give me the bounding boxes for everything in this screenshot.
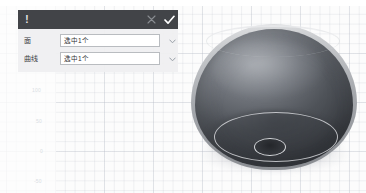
curve-field-wrapper: 选中1个	[60, 52, 172, 65]
form-row-face: 面 选中1个	[24, 34, 172, 47]
dome-bottom-hole[interactable]	[254, 138, 286, 156]
application-window: 100 50 0 -50 !	[0, 0, 366, 193]
checkmark-icon	[164, 15, 175, 25]
dialog-header[interactable]: !	[18, 10, 178, 29]
curve-selection-input[interactable]: 选中1个	[60, 52, 160, 65]
face-selection-input[interactable]: 选中1个	[60, 34, 160, 47]
face-field-wrapper: 选中1个	[60, 34, 172, 47]
confirm-button[interactable]	[160, 10, 178, 29]
dome-top-rim-highlight	[206, 25, 340, 57]
alert-icon: !	[18, 15, 36, 25]
dome-model[interactable]	[186, 14, 362, 186]
selection-dialog[interactable]: ! 面 选中1个	[18, 10, 178, 72]
chevron-down-icon	[169, 39, 176, 44]
viewport-top-gutter	[0, 0, 366, 6]
face-dropdown-button[interactable]	[168, 37, 177, 45]
chevron-down-icon	[169, 57, 176, 62]
dialog-body: 面 选中1个 曲线 选中1个	[18, 29, 178, 72]
close-button[interactable]	[142, 10, 160, 29]
close-icon	[147, 15, 156, 24]
form-row-curve: 曲线 选中1个	[24, 52, 172, 65]
curve-dropdown-button[interactable]	[168, 55, 177, 63]
face-field-label: 面	[24, 37, 60, 44]
curve-field-label: 曲线	[24, 55, 60, 62]
